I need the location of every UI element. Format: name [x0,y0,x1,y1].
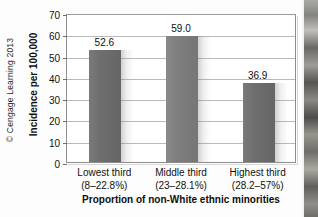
x-category-name: Middle third [155,166,207,179]
y-axis-tick-label: 50 [49,52,60,63]
bar-value-label: 59.0 [171,23,190,34]
x-category-name: Highest third [230,166,286,179]
y-axis-tick-label: 0 [54,159,60,170]
y-axis-title: Incidence per 100,000 [28,10,39,160]
bar [166,36,198,162]
bar [89,50,121,162]
bar-value-label: 52.6 [95,37,114,48]
chart-figure: © Cengage Learning 2013 Incidence per 10… [0,0,318,217]
x-category-range: (28.2–57%) [230,179,286,192]
y-axis-tick-label: 10 [49,137,60,148]
copyright-notice: © Cengage Learning 2013 [5,25,15,155]
y-axis-tick-label: 30 [49,95,60,106]
y-axis-tick [63,58,67,59]
bar [243,83,275,162]
adjacent-photo-sliver [304,0,318,217]
bar-sheen [89,50,121,162]
x-category-range: (23–28.1%) [155,179,207,192]
y-axis-tick [63,36,67,37]
y-axis-tick [63,15,67,16]
y-axis-tick [63,164,67,165]
bar-sheen [166,36,198,162]
x-category-range: (8–22.8%) [77,179,131,192]
y-axis-tick [63,79,67,80]
bar-sheen [243,83,275,162]
x-axis-title: Proportion of non-White ethnic minoritie… [66,194,296,205]
x-category-label: Middle third(23–28.1%) [155,166,207,192]
y-axis-tick [63,121,67,122]
bar-drop-shadow [121,50,134,162]
y-axis-tick [63,100,67,101]
bar-drop-shadow [275,83,288,162]
y-axis-tick-label: 40 [49,73,60,84]
x-category-label: Lowest third(8–22.8%) [77,166,131,192]
y-axis-tick-label: 70 [49,10,60,21]
y-axis-tick-label: 60 [49,31,60,42]
x-category-label: Highest third(28.2–57%) [230,166,286,192]
x-category-name: Lowest third [77,166,131,179]
bar-value-label: 36.9 [248,70,267,81]
y-axis-tick-label: 20 [49,116,60,127]
y-axis-tick [63,143,67,144]
